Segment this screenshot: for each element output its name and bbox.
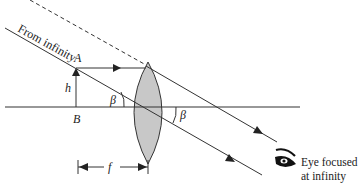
point-a-label: A (73, 51, 82, 65)
eye-caption-line1: Eye focused (301, 156, 358, 169)
angle-arc-right (173, 107, 176, 123)
angle-beta-right-label: β (179, 108, 186, 122)
parallel-ray-arrow-icon (113, 64, 121, 72)
eye-caption-line2: at infinity (301, 170, 346, 183)
angle-beta-left-label: β (109, 93, 116, 107)
point-b-label: B (73, 112, 81, 126)
convex-lens (134, 62, 162, 164)
central-ray-from-infinity (5, 28, 262, 175)
height-label: h (65, 81, 71, 95)
dashed-ray-extension (30, 0, 146, 65)
simple-microscope-diagram: From infinity A B h β β f Eye focused at… (0, 0, 361, 194)
eye-icon (275, 149, 296, 167)
focal-arrow-right-icon (138, 163, 147, 171)
upper-ray-arrow-icon (253, 126, 263, 134)
object-arrow-icon (72, 68, 80, 76)
from-infinity-label: From infinity (16, 21, 79, 64)
focal-label-bg (104, 159, 120, 173)
focal-arrow-left-icon (79, 163, 88, 171)
